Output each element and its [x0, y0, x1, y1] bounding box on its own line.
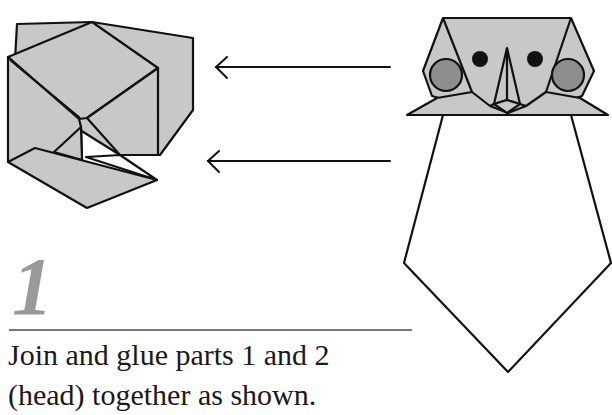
instruction-line-1: Join and glue parts 1 and 2	[8, 335, 428, 375]
owl-body	[404, 115, 611, 372]
owl-figure-right	[404, 18, 611, 372]
instruction-text: Join and glue parts 1 and 2 (head) toget…	[8, 335, 428, 415]
folded-part-left	[8, 22, 193, 208]
arrow-top-icon	[216, 57, 390, 78]
divider-rule	[9, 329, 412, 331]
step-number: 1	[12, 246, 51, 328]
right-eye-icon	[527, 51, 543, 67]
instruction-line-2: (head) together as shown.	[8, 375, 428, 415]
arrow-bottom-icon	[208, 151, 390, 172]
left-eye-icon	[472, 51, 488, 67]
left-cheek	[430, 59, 462, 91]
right-cheek	[552, 59, 584, 91]
